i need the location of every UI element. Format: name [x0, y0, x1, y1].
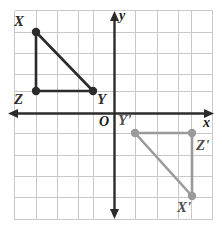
triangle-xyz-outline: [36, 32, 93, 91]
vertex-label-z: Z: [14, 92, 23, 107]
triangle-xyz-prime-outline: [135, 133, 192, 196]
triangle-xyz-prime-image: [131, 129, 196, 200]
vertex-point-y-prime: [131, 129, 139, 137]
vertex-point-x: [32, 28, 40, 36]
axis-label-x: x: [203, 116, 210, 130]
vertex-label-y-prime: Y': [118, 113, 131, 128]
coordinate-plane-figure: X Y Z Y' Z' X' y x O: [0, 0, 222, 230]
vertex-label-z-prime: Z': [196, 138, 209, 153]
axis-label-y: y: [119, 9, 125, 23]
origin-label: O: [99, 115, 109, 129]
vertex-point-y: [89, 87, 97, 95]
y-axis-arrow-up: [110, 11, 119, 21]
vertex-label-y: Y: [97, 92, 106, 107]
vertex-point-z-prime: [188, 129, 196, 137]
vertex-label-x-prime: X': [177, 200, 191, 215]
vertex-point-z: [32, 87, 40, 95]
coordinate-plane-svg: [0, 0, 222, 230]
y-axis-arrow-down: [110, 209, 119, 219]
vertex-label-x: X: [14, 14, 24, 29]
triangle-xyz-preimage: [32, 28, 97, 95]
x-axis-arrow-left: [8, 109, 18, 118]
